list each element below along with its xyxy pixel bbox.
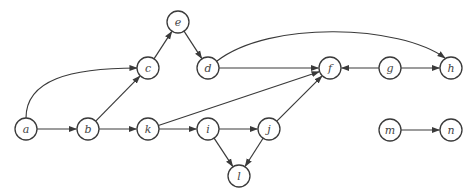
node-label: d — [204, 62, 211, 75]
node-label: c — [145, 62, 151, 75]
node-m: m — [379, 119, 401, 141]
directed-graph: ecdfghabkijlmn — [0, 0, 476, 195]
node-f: f — [319, 57, 341, 79]
edges-layer — [26, 31, 445, 166]
node-l: l — [228, 165, 250, 187]
node-h: h — [440, 57, 462, 79]
node-label: i — [206, 123, 210, 136]
edge-j-to-l — [245, 138, 263, 166]
edge-j-to-f — [277, 76, 322, 121]
node-label: n — [447, 124, 454, 137]
edge-a-to-c — [26, 68, 137, 118]
node-d: d — [197, 57, 219, 79]
node-label: g — [386, 62, 393, 75]
node-label: h — [447, 62, 454, 75]
node-label: k — [145, 123, 152, 136]
node-c: c — [137, 57, 159, 79]
edge-i-to-l — [214, 138, 233, 166]
node-label: l — [237, 170, 241, 183]
node-n: n — [440, 119, 462, 141]
node-i: i — [197, 118, 219, 140]
node-b: b — [77, 118, 99, 140]
node-j: j — [258, 118, 280, 140]
node-e: e — [167, 11, 189, 33]
node-k: k — [137, 118, 159, 140]
edge-b-to-c — [96, 76, 140, 121]
edge-e-to-d — [184, 31, 202, 58]
node-label: b — [84, 123, 91, 136]
node-label: m — [385, 124, 395, 137]
edge-k-to-f — [158, 72, 319, 126]
node-label: e — [175, 16, 182, 29]
edge-c-to-e — [154, 32, 172, 59]
node-a: a — [15, 118, 37, 140]
node-label: a — [23, 123, 30, 136]
node-g: g — [379, 57, 401, 79]
